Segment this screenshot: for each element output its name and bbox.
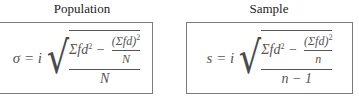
inner-fraction: (Σfd)2 N: [112, 33, 140, 67]
sample-denominator: n − 1: [282, 71, 312, 87]
sample-formula-box: s = i √ Σfd2 − (Σfd)2 n n − 1: [186, 22, 353, 94]
minus-sign: −: [92, 42, 108, 58]
minus-sign: −: [284, 42, 300, 58]
population-formula: σ = i √ Σfd2 − (Σfd)2 N N: [0, 23, 152, 93]
inner-denominator: N: [122, 52, 130, 67]
population-denominator: N: [100, 71, 109, 87]
inner-numerator: (Σfd)2: [112, 33, 140, 49]
population-header: Population: [12, 0, 152, 18]
population-radicand: Σfd2 − (Σfd)2 N N: [69, 30, 140, 87]
sample-lhs: s = i: [207, 50, 235, 67]
inner-fraction: (Σfd)2 n: [304, 33, 332, 67]
population-formula-box: σ = i √ Σfd2 − (Σfd)2 N N: [0, 22, 153, 94]
square-root-icon: √: [47, 36, 69, 80]
inner-denominator: n: [315, 52, 321, 67]
sum-fd-squared: Σfd2: [261, 42, 284, 58]
population-lhs: σ = i: [13, 50, 42, 67]
square-root-icon: √: [239, 36, 261, 80]
sum-fd-squared: Σfd2: [69, 42, 92, 58]
inner-numerator: (Σfd)2: [304, 33, 332, 49]
sample-header: Sample: [186, 0, 352, 18]
sample-radicand: Σfd2 − (Σfd)2 n n − 1: [261, 30, 332, 87]
sample-formula: s = i √ Σfd2 − (Σfd)2 n n − 1: [187, 23, 352, 93]
